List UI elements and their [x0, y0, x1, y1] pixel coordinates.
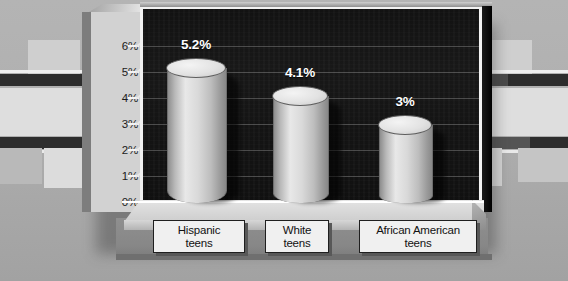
- category-labels: HispanicteensWhiteteensAfrican Americant…: [143, 220, 488, 260]
- screenshot-root: 0%1%2%3%4%5%6% 5.2%4.1%3% HispanicteensW…: [0, 0, 568, 281]
- category-label-box[interactable]: Hispanicteens: [153, 220, 245, 253]
- bar-chart: 0%1%2%3%4%5%6% 5.2%4.1%3% HispanicteensW…: [78, 2, 490, 260]
- bar-top-ellipse: [378, 115, 432, 135]
- plot-frame-right-edge: [482, 6, 492, 212]
- bar-body: [167, 68, 227, 203]
- bar-body: [379, 125, 433, 203]
- category-label-line: teens: [270, 237, 324, 250]
- bar-value-label: 3%: [395, 94, 414, 109]
- bar[interactable]: [379, 125, 431, 203]
- category-label-line: White: [270, 224, 324, 237]
- y-axis-tick-labels: 0%1%2%3%4%5%6%: [88, 12, 142, 212]
- bar-top-ellipse: [166, 58, 226, 78]
- bar-value-label: 4.1%: [285, 65, 315, 80]
- category-label-line: teens: [364, 237, 472, 250]
- category-label-line: Hispanic: [158, 224, 240, 237]
- bar[interactable]: [167, 68, 225, 203]
- category-label-line: teens: [158, 237, 240, 250]
- bar[interactable]: [273, 96, 327, 203]
- chart-floor-top: [124, 200, 484, 222]
- bar-series: 5.2%4.1%3%: [143, 9, 479, 203]
- bar-value-label: 5.2%: [181, 37, 211, 52]
- category-label-box[interactable]: African Americanteens: [359, 220, 477, 253]
- plot-frame-top-bevel: [140, 2, 492, 7]
- background-block: [518, 148, 568, 182]
- category-label-box[interactable]: Whiteteens: [265, 220, 329, 253]
- background-block: [0, 148, 42, 184]
- bar-body: [273, 96, 329, 203]
- category-label-line: African American: [364, 224, 472, 237]
